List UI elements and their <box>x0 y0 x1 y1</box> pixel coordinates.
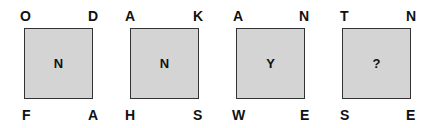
center-letter: N <box>54 56 63 71</box>
corner-bottom-right: E <box>300 108 309 122</box>
square-1: O D N F A <box>24 0 96 128</box>
square-4: T N ? S E <box>342 0 414 128</box>
square-box: N <box>130 28 199 99</box>
corner-top-left: T <box>340 9 349 23</box>
square-box: Y <box>236 28 305 99</box>
center-question-mark: ? <box>373 56 381 71</box>
corner-bottom-left: F <box>22 108 31 122</box>
letter-square-puzzle: O D N F A A K N H S A N Y W E T N ? S E <box>0 0 437 128</box>
corner-bottom-left: S <box>340 108 349 122</box>
corner-top-left: O <box>20 9 31 23</box>
corner-top-right: K <box>193 9 203 23</box>
corner-top-right: N <box>299 9 309 23</box>
corner-top-right: N <box>406 9 416 23</box>
square-3: A N Y W E <box>236 0 308 128</box>
corner-bottom-right: E <box>406 108 415 122</box>
center-letter: N <box>160 56 169 71</box>
corner-top-left: A <box>125 9 135 23</box>
square-box: ? <box>342 28 411 99</box>
square-box: N <box>24 28 93 99</box>
corner-bottom-left: H <box>125 108 135 122</box>
square-2: A K N H S <box>130 0 202 128</box>
center-letter: Y <box>266 56 275 71</box>
corner-bottom-left: W <box>232 108 245 122</box>
corner-bottom-right: A <box>88 108 98 122</box>
corner-top-left: A <box>233 9 243 23</box>
corner-top-right: D <box>88 9 98 23</box>
corner-bottom-right: S <box>193 108 202 122</box>
